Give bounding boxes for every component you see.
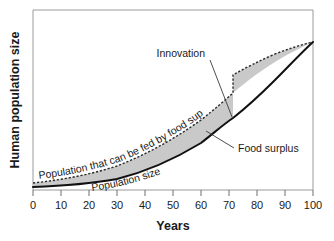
x-tick-label: 20 — [83, 199, 95, 211]
food-surplus-leader-line — [206, 131, 234, 148]
plot-frame — [33, 10, 313, 190]
x-tick-label: 80 — [251, 199, 263, 211]
x-tick-label: 60 — [195, 199, 207, 211]
x-tick-label: 40 — [139, 199, 151, 211]
x-axis-title: Years — [156, 219, 189, 233]
x-tick-label: 100 — [304, 199, 322, 211]
chart-svg: 0 10 20 30 40 50 60 70 80 90 100 Years H… — [0, 0, 334, 241]
x-tick-label: 90 — [279, 199, 291, 211]
x-tick-labels: 0 10 20 30 40 50 60 70 80 90 100 — [30, 199, 322, 211]
annotation-innovation: Innovation — [157, 47, 206, 59]
annotation-food-surplus: Food surplus — [238, 142, 299, 154]
x-axis-ticks — [33, 190, 313, 196]
x-tick-label: 0 — [30, 199, 36, 211]
x-tick-label: 50 — [167, 199, 179, 211]
x-tick-label: 70 — [223, 199, 235, 211]
x-tick-label: 10 — [55, 199, 67, 211]
y-axis-title: Human population size — [8, 32, 22, 169]
x-tick-label: 30 — [111, 199, 123, 211]
chart-figure: 0 10 20 30 40 50 60 70 80 90 100 Years H… — [0, 0, 334, 241]
